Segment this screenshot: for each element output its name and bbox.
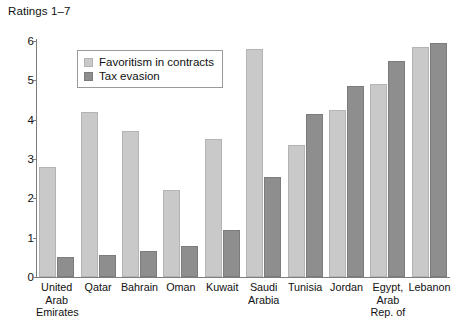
- x-axis-label: Jordan: [326, 281, 367, 294]
- x-axis-label: Qatar: [77, 281, 118, 294]
- x-axis-label: Kuwait: [202, 281, 243, 294]
- bar-group: [326, 41, 367, 277]
- bar: [288, 145, 305, 277]
- bar: [39, 167, 56, 277]
- chart-title: Ratings 1–7: [8, 5, 70, 17]
- bar-group: [409, 41, 450, 277]
- chart-legend: Favoritism in contracts Tax evasion: [77, 50, 223, 88]
- bar: [205, 139, 222, 277]
- legend-item-label: Favoritism in contracts: [99, 56, 214, 68]
- x-axis-label: Oman: [160, 281, 201, 294]
- legend-item: Tax evasion: [84, 69, 214, 83]
- y-axis-tick-label: 0: [0, 271, 34, 283]
- legend-swatch-icon: [84, 72, 93, 81]
- legend-item-label: Tax evasion: [99, 70, 160, 82]
- bar: [122, 131, 139, 277]
- y-axis-tick-label: 4: [0, 114, 34, 126]
- bar: [370, 84, 387, 277]
- bar: [329, 110, 346, 277]
- bar: [57, 257, 74, 277]
- bar: [140, 251, 157, 277]
- y-axis-tick-label: 1: [0, 232, 34, 244]
- x-axis-label: Lebanon: [409, 281, 450, 294]
- bar: [347, 86, 364, 277]
- bar: [430, 43, 447, 277]
- bar: [99, 255, 116, 277]
- bar: [412, 47, 429, 277]
- bar-chart: Ratings 1–7 0123456 UnitedArabEmiratesQa…: [0, 0, 456, 335]
- x-axis-label: Tunisia: [284, 281, 325, 294]
- bar: [264, 177, 281, 277]
- y-axis-tick-label: 5: [0, 74, 34, 86]
- x-axis-label: UnitedArabEmirates: [36, 281, 77, 319]
- bar: [163, 190, 180, 277]
- y-axis-tick-label: 3: [0, 153, 34, 165]
- bar: [223, 230, 240, 277]
- x-axis-label: SaudiArabia: [243, 281, 284, 306]
- bar: [306, 114, 323, 277]
- bar: [81, 112, 98, 277]
- x-axis-label: Egypt,ArabRep. of: [367, 281, 408, 319]
- x-axis-line: [36, 277, 450, 278]
- bar-group: [367, 41, 408, 277]
- bar: [181, 246, 198, 277]
- bar-group: [243, 41, 284, 277]
- x-axis-label: Bahrain: [119, 281, 160, 294]
- bar: [246, 49, 263, 277]
- y-axis-tick-label: 2: [0, 192, 34, 204]
- legend-swatch-icon: [84, 58, 93, 67]
- y-axis-tick-mark: [33, 277, 37, 278]
- legend-item: Favoritism in contracts: [84, 55, 214, 69]
- bar: [388, 61, 405, 277]
- bar-group: [36, 41, 77, 277]
- y-axis-tick-label: 6: [0, 35, 34, 47]
- bar-group: [284, 41, 325, 277]
